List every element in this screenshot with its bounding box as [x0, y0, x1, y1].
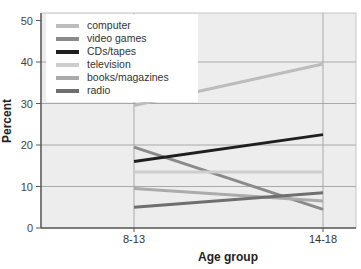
- x-category-label-14-18: 14-18: [309, 233, 337, 245]
- legend-swatch-radio: [56, 89, 79, 93]
- legend-item-television: television: [56, 58, 188, 71]
- y-tick-label-30: 30: [21, 98, 33, 110]
- legend-swatch-video-games: [56, 37, 79, 41]
- x-axis-title: Age group: [198, 250, 258, 264]
- legend-label-cds-tapes: CDs/tapes: [87, 45, 136, 58]
- legend-swatch-computer: [56, 24, 79, 28]
- legend-item-computer: computer: [56, 19, 188, 32]
- x-category-label-8-13: 8-13: [123, 233, 145, 245]
- legend-swatch-cds-tapes: [56, 50, 79, 54]
- legend-item-radio: radio: [56, 84, 188, 97]
- legend-label-radio: radio: [87, 84, 110, 97]
- legend-label-books-magazines: books/magazines: [87, 71, 169, 84]
- legend-item-books-magazines: books/magazines: [56, 71, 188, 84]
- y-tick-label-20: 20: [21, 139, 33, 151]
- legend-item-video-games: video games: [56, 32, 188, 45]
- y-tick-label-50: 50: [21, 15, 33, 27]
- legend: computervideo gamesCDs/tapestelevisionbo…: [46, 14, 198, 102]
- y-tick-label-40: 40: [21, 56, 33, 68]
- legend-label-computer: computer: [87, 19, 131, 32]
- y-axis-title: Percent: [0, 99, 14, 143]
- legend-label-video-games: video games: [87, 32, 147, 45]
- y-tick-label-10: 10: [21, 181, 33, 193]
- legend-item-cds-tapes: CDs/tapes: [56, 45, 188, 58]
- legend-label-television: television: [87, 58, 131, 71]
- line-chart-figure: 010203040508-1314-18 Age group Percent c…: [0, 0, 361, 269]
- y-tick-label-0: 0: [27, 222, 33, 234]
- legend-swatch-television: [56, 63, 79, 67]
- legend-swatch-books-magazines: [56, 76, 79, 80]
